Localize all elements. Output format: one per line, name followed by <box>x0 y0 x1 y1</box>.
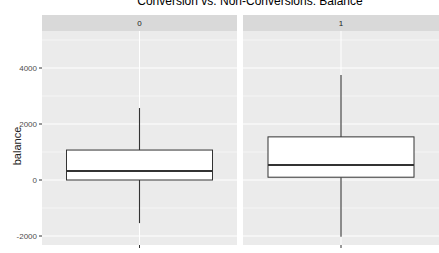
y-tick-label: -2000 <box>17 232 38 241</box>
box-iqr <box>67 150 213 180</box>
y-tick-label: 4000 <box>19 64 37 73</box>
box-iqr <box>268 137 414 177</box>
y-tick-label: 2000 <box>19 120 37 129</box>
facet-label: 1 <box>339 19 344 28</box>
y-tick-label: 0 <box>33 176 38 185</box>
plot-area: 01-2000020004000 <box>0 0 439 253</box>
facet-panel-0: 0 <box>42 15 237 248</box>
facet-label: 0 <box>137 19 142 28</box>
facet-panel-1: 1 <box>243 15 439 248</box>
y-axis: -2000020004000 <box>17 64 42 241</box>
